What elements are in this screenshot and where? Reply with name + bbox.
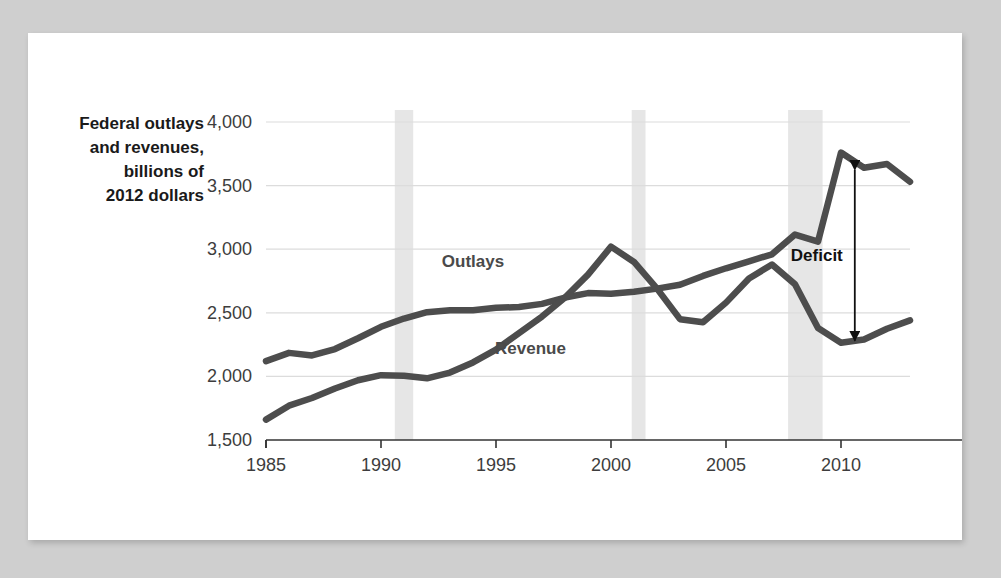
y-axis-title-line-4: 2012 dollars	[106, 186, 204, 205]
x-tick-label-2010: 2010	[821, 455, 861, 475]
chart-card: 1,5002,0002,5003,0003,5004,0001985199019…	[28, 33, 962, 540]
x-tick-label-2000: 2000	[591, 455, 631, 475]
x-tick-label-1990: 1990	[361, 455, 401, 475]
line-chart: 1,5002,0002,5003,0003,5004,0001985199019…	[28, 33, 962, 540]
y-tick-label-1500: 1,500	[207, 430, 252, 450]
revenue-label: Revenue	[495, 339, 566, 358]
outlays-label: Outlays	[442, 252, 504, 271]
x-axis: 198519901995200020052010	[246, 440, 962, 475]
y-tick-label-4000: 4,000	[207, 112, 252, 132]
y-axis-title-line-3: billions of	[124, 162, 205, 181]
y-axis-title-line-1: Federal outlays	[79, 114, 204, 133]
x-tick-label-1995: 1995	[476, 455, 516, 475]
y-tick-label-3000: 3,000	[207, 239, 252, 259]
y-tick-label-3500: 3,500	[207, 176, 252, 196]
y-axis: 1,5002,0002,5003,0003,5004,000	[207, 112, 252, 450]
recession-1990-1991	[395, 110, 413, 440]
y-tick-label-2000: 2,000	[207, 366, 252, 386]
deficit-label: Deficit	[791, 246, 843, 265]
x-tick-label-1985: 1985	[246, 455, 286, 475]
page-background: 1,5002,0002,5003,0003,5004,0001985199019…	[0, 0, 1001, 578]
recession-2008-2009	[788, 110, 823, 440]
y-axis-title: Federal outlaysand revenues,billions of2…	[79, 114, 204, 205]
y-axis-title-line-2: and revenues,	[90, 138, 204, 157]
y-tick-label-2500: 2,500	[207, 303, 252, 323]
x-tick-label-2005: 2005	[706, 455, 746, 475]
